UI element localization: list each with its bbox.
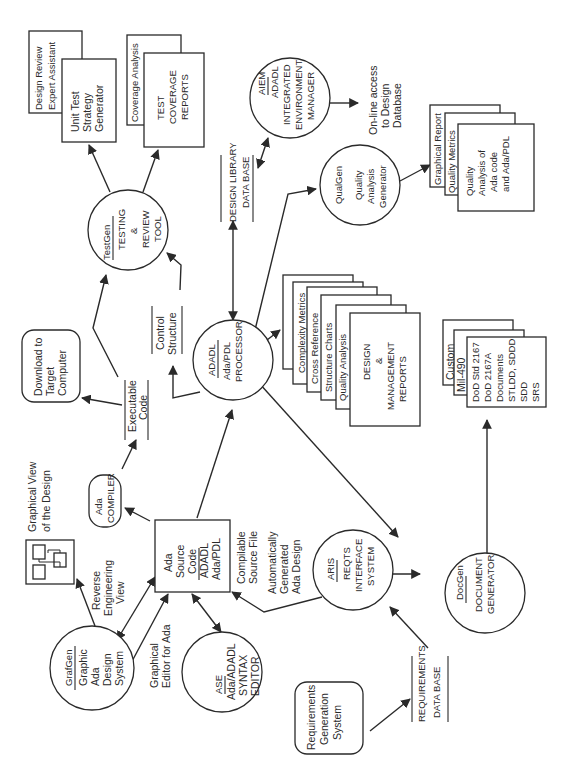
grafgen-title: GrafGen: [63, 650, 74, 686]
svg-text:MANAGEMENT: MANAGEMENT: [385, 342, 396, 410]
svg-text:REPORTS: REPORTS: [179, 74, 190, 120]
svg-text:EDITOR: EDITOR: [249, 656, 261, 696]
svg-text:DATA BASE: DATA BASE: [240, 157, 251, 208]
svg-text:Structure Charts: Structure Charts: [323, 323, 334, 392]
svg-text:INTEGRATED: INTEGRATED: [281, 64, 292, 125]
executable-code-store: Executable Code: [125, 380, 149, 440]
svg-text:Generator: Generator: [377, 165, 388, 208]
svg-text:Complexity Metrics: Complexity Metrics: [296, 293, 307, 373]
svg-text:COVERAGE: COVERAGE: [167, 70, 178, 124]
graphical-view-label-2: of the Design: [40, 470, 52, 532]
ase-process: ASE Ada/ADADL SYNTAX EDITOR: [182, 632, 262, 712]
svg-text:Cross Reference: Cross Reference: [309, 313, 320, 384]
svg-text:REVIEW: REVIEW: [140, 210, 151, 248]
svg-text:Code: Code: [137, 395, 149, 420]
svg-text:ASE: ASE: [213, 675, 224, 694]
svg-text:TestGen: TestGen: [101, 225, 112, 260]
documents-stack: Custom Mil-490 DoD Std 2167 DoD 2167A Do…: [443, 320, 546, 407]
svg-text:to Design: to Design: [379, 83, 391, 128]
svg-text:Analysis of: Analysis of: [476, 150, 487, 196]
svg-text:DOCUMENT: DOCUMENT: [473, 557, 484, 612]
svg-text:Graphical: Graphical: [148, 643, 160, 688]
svg-text:Computer: Computer: [56, 349, 68, 396]
svg-text:Automatically: Automatically: [266, 531, 278, 594]
online-access-label: On-line access to Design Database: [367, 66, 403, 135]
svg-text:REQTS: REQTS: [341, 547, 352, 580]
svg-text:Mil-490: Mil-490: [455, 357, 467, 392]
svg-text:Quality: Quality: [353, 170, 364, 200]
svg-text:ENVIRONMENT: ENVIRONMENT: [293, 60, 304, 130]
svg-text:SYNTAX: SYNTAX: [237, 655, 249, 696]
svg-text:TOOL: TOOL: [152, 216, 163, 242]
requirements-data-base: REQUIREMENTS DATA BASE: [412, 645, 448, 722]
svg-text:Ada: Ada: [162, 553, 174, 572]
svg-text:On-line access: On-line access: [367, 66, 379, 135]
graphical-view-label-1: Graphical View: [26, 461, 38, 532]
svg-text:Graphic: Graphic: [77, 649, 89, 686]
software-tools-dataflow-diagram: Graphical View of the Design Reverse Eng…: [0, 0, 564, 772]
svg-text:Requirements: Requirements: [305, 685, 317, 750]
svg-text:DESIGN: DESIGN: [361, 343, 372, 380]
svg-text:System: System: [331, 705, 343, 740]
svg-text:ADADL: ADADL: [206, 344, 217, 376]
svg-text:Control: Control: [154, 316, 166, 350]
svg-text:ARIS: ARIS: [325, 558, 336, 580]
svg-text:Design: Design: [101, 653, 113, 686]
svg-text:View: View: [114, 581, 126, 604]
svg-text:Documents: Documents: [494, 354, 505, 402]
svg-text:ADADL: ADADL: [198, 543, 210, 578]
aris-process: ARIS REQTS INTERFACE SYSTEM: [313, 530, 393, 610]
svg-text:DoD Std 2167: DoD Std 2167: [470, 342, 481, 402]
svg-text:TEST: TEST: [155, 96, 166, 120]
quality-outputs-stack: Graphical Report Quality Metrics Quality…: [430, 105, 534, 211]
svg-text:Ada code: Ada code: [488, 152, 499, 192]
reverse-engineering-label: Reverse Engineering View: [90, 560, 126, 616]
ada-source-code-box: Ada Source Code ADADL Ada/PDL: [155, 520, 230, 592]
svg-text:&: &: [373, 357, 384, 364]
svg-text:Generator: Generator: [93, 84, 105, 132]
svg-text:Analysis: Analysis: [365, 168, 376, 204]
svg-text:Design Review: Design Review: [33, 47, 44, 110]
graphical-editor-label: Graphical Editor for Ada: [148, 624, 172, 688]
svg-text:INTERFACE: INTERFACE: [353, 539, 364, 592]
svg-text:Engineering: Engineering: [102, 560, 114, 616]
testgen-process: TestGen TESTING & REVIEW TOOL: [88, 190, 168, 270]
svg-text:Coverage Analysis: Coverage Analysis: [129, 43, 140, 122]
svg-text:Compilable: Compilable: [235, 531, 247, 584]
svg-text:STLDD, SDDD: STLDD, SDDD: [506, 339, 517, 402]
svg-text:SRS: SRS: [530, 382, 541, 402]
svg-text:Strategy: Strategy: [81, 92, 93, 132]
test-coverage-stack: Coverage Analysis TEST COVERAGE REPORTS: [127, 35, 204, 147]
grafgen-process: GrafGen Graphic Ada Design System: [50, 626, 134, 710]
svg-text:&: &: [128, 227, 139, 234]
svg-text:Ada/PDL: Ada/PDL: [221, 342, 232, 380]
svg-text:Expert Assistant: Expert Assistant: [46, 42, 57, 110]
svg-text:Editor for Ada: Editor for Ada: [160, 624, 172, 688]
svg-text:and Ada/PDL: and Ada/PDL: [500, 136, 511, 192]
compilable-source-label: Compilable Source File: [235, 531, 259, 584]
auto-generated-label: Automatically Generated Ada Design: [266, 531, 302, 594]
design-management-reports-stack: Complexity Metrics Cross Reference Struc…: [283, 275, 420, 426]
svg-text:Ada: Ada: [93, 497, 104, 515]
svg-text:REPORTS: REPORTS: [397, 356, 408, 402]
svg-text:PROCESSOR: PROCESSOR: [233, 321, 244, 382]
svg-text:Reverse: Reverse: [90, 571, 102, 610]
svg-text:DATA BASE: DATA BASE: [431, 667, 442, 718]
design-library-data-base: DESIGN LIBRARY DATA BASE: [221, 142, 253, 222]
aiem-process: AIEM ADADL INTEGRATED ENVIRONMENT MANAGE…: [250, 58, 330, 138]
svg-text:Generated: Generated: [278, 544, 290, 594]
svg-text:Download to: Download to: [32, 337, 44, 396]
svg-text:Graphical Report: Graphical Report: [432, 113, 443, 185]
svg-text:GENERATOR: GENERATOR: [485, 555, 496, 614]
svg-text:TESTING: TESTING: [116, 209, 127, 250]
svg-text:QualGen: QualGen: [333, 166, 344, 204]
svg-text:Generation: Generation: [318, 693, 330, 745]
svg-text:AIEM: AIEM: [256, 72, 267, 95]
control-structure-store: Control Structure: [152, 306, 182, 355]
docgen-process: DocGen DOCUMENT GENERATOR: [445, 553, 525, 633]
svg-text:COMPILER: COMPILER: [105, 473, 116, 523]
svg-text:Ada/PDL: Ada/PDL: [210, 538, 222, 580]
svg-text:Target: Target: [44, 367, 56, 396]
svg-text:SDD: SDD: [518, 382, 529, 402]
svg-text:Quality: Quality: [464, 166, 475, 196]
